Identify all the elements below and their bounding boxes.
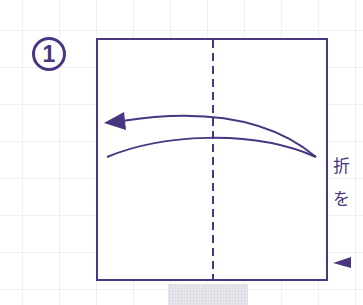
instruction-text-char-2: を (333, 183, 363, 216)
fold-arrow-lower-curve (107, 138, 316, 157)
arrow-head-icon (104, 112, 126, 130)
instruction-text-char-1: 折 (333, 150, 363, 183)
fold-arrow-upper-curve (122, 116, 316, 157)
pointer-triangle-icon (333, 257, 351, 268)
